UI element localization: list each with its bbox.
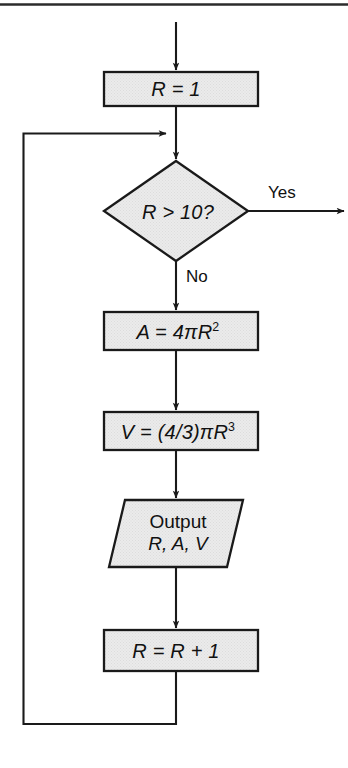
node-decision-label: R > 10? — [142, 202, 214, 223]
node-volume-label: V = (4/3)πR3 — [121, 422, 235, 443]
edge-label-yes: Yes — [268, 184, 296, 202]
node-area-base: A = 4πR — [137, 321, 213, 343]
node-increment-label: R = R + 1 — [132, 641, 219, 662]
node-init-label: R = 1 — [151, 79, 200, 100]
edge-label-no: No — [186, 268, 208, 286]
node-volume-exponent: 3 — [228, 420, 235, 434]
node-output-line2: R, A, V — [148, 533, 207, 555]
node-volume-base: V = (4/3)πR — [121, 421, 228, 443]
flowchart-figure: R = 1 R > 10? Yes No A = 4πR2 V = (4/3)π… — [0, 0, 348, 768]
node-output-line1: Output — [148, 511, 207, 533]
node-output-label: Output R, A, V — [148, 511, 207, 555]
node-area-exponent: 2 — [212, 320, 219, 334]
node-area-label: A = 4πR2 — [137, 322, 220, 343]
